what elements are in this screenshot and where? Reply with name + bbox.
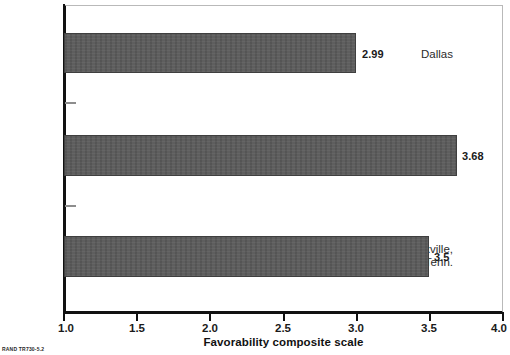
x-tick-3 (209, 314, 211, 321)
category-separator-tick-2 (65, 205, 76, 207)
x-tick-4 (283, 314, 285, 321)
bar-value-knoxville: 3.5 (434, 251, 450, 263)
figure-source-id: RAND TR730-5.2 (2, 346, 44, 352)
x-tick-label-2: 1.5 (129, 322, 145, 334)
x-axis-title: Favorability composite scale (64, 336, 503, 348)
bar-knoxville (64, 236, 429, 277)
x-tick-7 (502, 314, 504, 321)
x-tick-label-5: 3.0 (348, 322, 364, 334)
bar-value-dallas: 2.99 (362, 48, 384, 60)
bar-dallas (64, 33, 356, 73)
bar-kettering (64, 135, 457, 176)
x-tick-label-7: 4.0 (491, 322, 507, 334)
x-tick-6 (429, 314, 431, 321)
x-tick-5 (356, 314, 358, 321)
bar-value-kettering: 3.68 (462, 150, 484, 162)
x-tick-label-6: 3.5 (421, 322, 437, 334)
x-tick-label-3: 2.0 (202, 322, 218, 334)
x-tick-1 (63, 314, 65, 321)
x-tick-label-1: 1.0 (58, 322, 74, 334)
x-tick-2 (136, 314, 138, 321)
category-separator-tick-1 (65, 102, 76, 104)
figure-container: Dallas 2.99 Kettering, Ohio 3.68 Knoxvil… (0, 0, 510, 355)
x-tick-label-4: 2.5 (275, 322, 291, 334)
